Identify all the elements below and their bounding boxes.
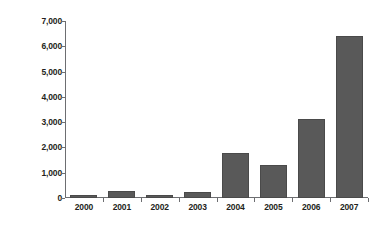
x-axis-tick-label: 2003 [188,202,206,212]
bar [184,192,211,198]
x-axis-tick-label: 2001 [113,202,131,212]
y-axis-tick-label: 1,000 [41,168,62,178]
x-axis-tick-label: 2004 [226,202,244,212]
y-axis-tick-mark [61,198,65,199]
bar [108,191,135,198]
bar [260,165,287,198]
y-axis-tick-label: 3,000 [41,117,62,127]
bar-chart-figure: Kilograms seized 01,0002,0003,0004,0005,… [0,0,379,234]
plot-area [65,21,368,198]
x-axis-tick-label: 2000 [75,202,93,212]
bar [146,195,173,198]
bar [298,119,325,198]
x-axis-tick-label: 2006 [302,202,320,212]
bar-group [65,21,368,198]
y-axis-tick-label: 5,000 [41,67,62,77]
x-axis-tick-label: 2007 [340,202,358,212]
x-axis-tick-label: 2005 [264,202,282,212]
bar [336,36,363,198]
y-axis-tick-label: 7,000 [41,16,62,26]
bar [70,195,97,198]
x-axis-tick-mark [368,198,369,202]
y-axis-tick-label-group: 01,0002,0003,0004,0005,0006,0007,000 [26,14,62,204]
x-axis-tick-label: 2002 [151,202,169,212]
y-axis-tick-label: 2,000 [41,142,62,152]
bar [222,153,249,198]
x-axis-tick-label-group: 20002001200220032004200520062007 [65,202,368,218]
y-axis-tick-label: 6,000 [41,41,62,51]
y-axis-tick-label: 4,000 [41,92,62,102]
